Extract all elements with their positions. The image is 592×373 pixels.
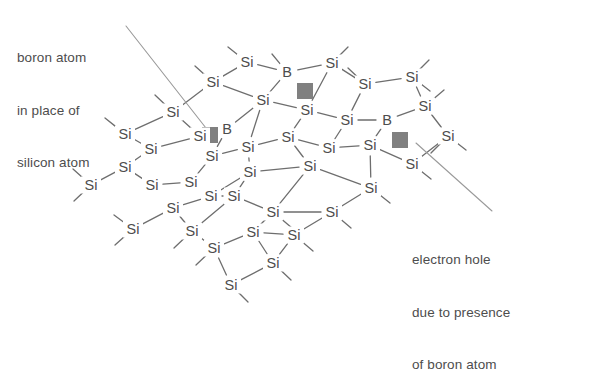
silicon-atom-label: Si [301,102,314,118]
bond-stub [421,84,430,91]
bond-line [180,216,185,222]
bond-stub [302,242,313,251]
silicon-atom-label: Si [359,76,372,92]
bond-line [294,119,300,128]
bond-line [219,258,227,275]
boron-atom-label: B [222,121,232,137]
bond-line [241,268,264,280]
bond-stub [239,293,248,302]
bond-line [259,241,267,254]
bond-line [134,155,142,160]
boron-callout-line-1: boron atom [17,49,89,67]
bond-stub [340,219,351,228]
silicon-atom-label: Si [167,104,180,120]
hole-callout-line-1: electron hole [412,251,510,269]
bond-line [376,79,401,83]
bond-line [280,244,288,254]
bond-stub [228,47,238,55]
bond-line [376,129,381,136]
bond-line [198,165,205,174]
bond-line [280,175,303,204]
bond-line [135,139,142,143]
silicon-atom-label: Si [244,164,257,180]
bond-stub [105,118,116,127]
bond-stub [348,68,357,76]
silicon-atom-label: Si [326,55,339,71]
bond-stub [272,54,280,64]
bond-line [397,110,414,116]
bond-line [258,65,277,70]
bond-stub [457,143,466,150]
bond-line [303,218,322,230]
bond-line [224,236,243,244]
bond-stub [115,236,125,245]
silicon-atom-label: Si [419,98,432,114]
bond-line [298,65,321,70]
boron-atom-callout: boron atom in place of silicon atom [17,14,89,207]
silicon-atom-label: Si [185,174,198,190]
electron-hole-2 [297,83,313,99]
bond-stub [281,271,291,280]
bond-line [223,150,238,154]
bond-line [251,110,259,136]
bond-line [416,87,420,96]
bond-stub [174,239,184,248]
silicon-atom-label: Si [241,54,254,70]
bond-line [163,183,180,184]
bond-line [270,80,280,91]
silicon-atom-label: Si [288,227,301,243]
silicon-atom-label: Si [119,126,132,142]
silicon-atom-label: Si [406,156,419,172]
bond-line [312,73,327,101]
bond-line [318,113,337,118]
bond-line [134,173,143,179]
silicon-atom-label: Si [228,188,241,204]
bond-line [340,146,359,147]
silicon-atom-label: Si [323,140,336,156]
bond-line [274,102,297,107]
silicon-atom-label: Si [365,180,378,196]
silicon-atom-label: Si [186,223,199,239]
silicon-atom-label: Si [167,200,180,216]
bond-line [380,150,402,160]
silicon-atom-label: Si [304,158,317,174]
bond-stub [380,195,390,203]
hole-callout-line-2: due to presence [412,304,510,322]
silicon-atom-label: Si [206,148,219,164]
bond-stub [420,60,429,69]
boron-atom-label: B [282,64,292,80]
electron-hole-3 [392,132,408,148]
bond-line [295,146,304,157]
bond-line [143,213,164,224]
silicon-atom-label: Si [406,69,419,85]
bond-line [183,199,200,204]
silicon-atom-label: Si [326,204,339,220]
bond-line [182,89,204,106]
silicon-atom-label: Si [119,159,132,175]
bond-line [135,117,163,130]
boron-atom-label: B [382,112,392,128]
bond-stub [195,66,205,75]
bond-line [236,107,255,122]
silicon-atom-label: Si [127,221,140,237]
silicon-atom-label: Si [194,128,207,144]
bond-line [432,115,442,128]
silicon-atom-label: Si [364,137,377,153]
bond-line [240,181,244,187]
bond-line [299,140,319,145]
silicon-atom-label: Si [442,128,455,144]
bond-line [101,172,116,180]
bond-line [261,167,299,171]
silicon-atom-label: Si [341,112,354,128]
bond-line [352,94,360,110]
bond-stub [340,47,348,55]
bond-stub [433,90,444,99]
silicon-atom-label: Si [208,240,221,256]
bond-stub [155,95,165,104]
silicon-atom-label: Si [242,139,255,155]
silicon-atom-label: Si [247,224,260,240]
bond-stub [196,256,206,265]
electron-hole-leader-line [416,143,492,211]
silicon-atom-label: Si [267,255,280,271]
